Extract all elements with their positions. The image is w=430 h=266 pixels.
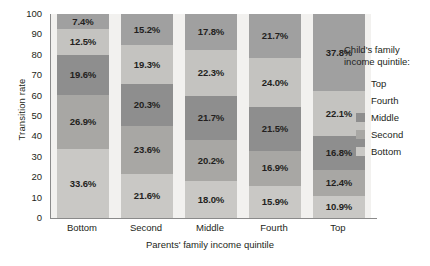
y-tick-label: 30 [18,152,42,162]
legend-swatch-icon [356,79,365,88]
y-tick-label: 70 [18,70,42,80]
y-tick-label: 20 [18,172,42,182]
bar-segment-value-label: 19.3% [134,60,160,70]
bar-segment-value-label: 22.3% [198,68,224,78]
bar-segment-top[interactable]: 17.8% [185,14,237,50]
legend-title: Child's family income quintile: [344,44,430,67]
legend-swatch-icon [356,130,365,139]
bar-segment-fourth[interactable]: 24.0% [249,58,301,107]
bar-fourth[interactable]: 21.7%24.0%21.5%16.9%15.9% [249,14,301,218]
bar-segment-second[interactable]: 16.9% [249,151,301,185]
bar-segment-fourth[interactable]: 12.5% [57,29,109,55]
x-tick-label: Middle [175,222,245,233]
y-tick-label: 100 [18,9,42,19]
bar-segment-value-label: 20.2% [198,156,224,166]
legend-item-middle[interactable]: Middle [344,109,430,126]
y-tick-label: 80 [18,50,42,60]
legend-item-second[interactable]: Second [344,126,430,143]
bar-segment-value-label: 21.7% [198,113,224,123]
bar-segment-second[interactable]: 20.2% [185,140,237,181]
bar-second[interactable]: 15.2%19.3%20.3%23.6%21.6% [121,14,173,218]
bar-segment-middle[interactable]: 20.3% [121,84,173,125]
stacked-bar-chart-figure: Transition rate 1009080706050403020100 7… [0,0,430,266]
bar-segment-second[interactable]: 26.9% [57,95,109,150]
bar-segment-value-label: 15.2% [134,25,160,35]
bar-segment-fourth[interactable]: 19.3% [121,45,173,84]
bar-bottom[interactable]: 7.4%12.5%19.6%26.9%33.6% [57,14,109,218]
bar-segment-middle[interactable]: 19.6% [57,55,109,95]
bar-segment-middle[interactable]: 21.7% [185,96,237,140]
legend-swatch-icon [356,147,365,156]
legend-item-label: Second [371,129,403,140]
legend-swatch-icon [356,113,365,122]
legend-item-label: Bottom [371,146,401,157]
bar-segment-value-label: 16.9% [262,163,288,173]
bar-segment-top[interactable]: 7.4% [57,14,109,29]
y-tick-label: 60 [18,91,42,101]
bar-segment-second[interactable]: 12.4% [313,170,365,195]
bar-segment-value-label: 21.5% [262,124,288,134]
bar-segment-value-label: 19.6% [70,70,96,80]
bar-segment-value-label: 24.0% [262,78,288,88]
bar-segment-second[interactable]: 23.6% [121,126,173,174]
bar-segment-value-label: 12.5% [70,37,96,47]
legend-item-label: Middle [371,112,399,123]
bar-segment-value-label: 23.6% [134,145,160,155]
bar-segment-value-label: 26.9% [70,117,96,127]
legend: Child's family income quintile: TopFourt… [344,44,430,160]
legend-swatch-icon [356,96,365,105]
y-tick-label: 90 [18,29,42,39]
bar-segment-value-label: 17.8% [198,27,224,37]
y-axis-tick-labels: 1009080706050403020100 [18,14,42,218]
bar-segment-value-label: 18.0% [198,195,224,205]
bar-segment-top[interactable]: 21.7% [249,14,301,58]
bar-segment-bottom[interactable]: 33.6% [57,149,109,218]
y-tick-label: 10 [18,193,42,203]
y-tick-label: 40 [18,131,42,141]
y-tick-label: 0 [18,213,42,223]
legend-title-line-2: income quintile: [344,56,430,68]
bar-segment-bottom[interactable]: 21.6% [121,174,173,218]
x-tick-label: Bottom [47,222,117,233]
bar-segment-middle[interactable]: 21.5% [249,107,301,151]
legend-title-line-1: Child's family [344,44,430,56]
legend-item-label: Fourth [371,95,398,106]
legend-item-fourth[interactable]: Fourth [344,92,430,109]
bar-segment-bottom[interactable]: 10.9% [313,196,365,218]
legend-item-top[interactable]: Top [344,75,430,92]
bar-segment-value-label: 21.7% [262,31,288,41]
bar-segment-value-label: 12.4% [326,178,352,188]
legend-item-label: Top [371,78,386,89]
x-tick-label: Fourth [239,222,309,233]
x-axis-title: Parents' family income quintile [50,239,370,250]
bar-middle[interactable]: 17.8%22.3%21.7%20.2%18.0% [185,14,237,218]
legend-item-bottom[interactable]: Bottom [344,143,430,160]
bar-segment-value-label: 21.6% [134,191,160,201]
bar-segment-value-label: 7.4% [72,17,93,27]
x-tick-label: Second [111,222,181,233]
bar-segment-fourth[interactable]: 22.3% [185,50,237,95]
legend-items: TopFourthMiddleSecondBottom [344,75,430,160]
bar-segment-bottom[interactable]: 18.0% [185,181,237,218]
bar-segment-value-label: 15.9% [262,197,288,207]
bar-segment-value-label: 10.9% [326,202,352,212]
plot-area: 7.4%12.5%19.6%26.9%33.6%15.2%19.3%20.3%2… [50,14,371,218]
y-tick-label: 50 [18,111,42,121]
x-axis-line [50,218,377,219]
x-tick-label: Top [303,222,373,233]
bar-segment-value-label: 20.3% [134,100,160,110]
bar-segment-top[interactable]: 15.2% [121,14,173,45]
bar-segment-value-label: 33.6% [70,179,96,189]
bar-segment-bottom[interactable]: 15.9% [249,186,301,218]
